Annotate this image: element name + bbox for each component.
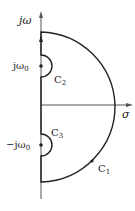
lower-pole-label: −jω0	[6, 139, 30, 152]
vertical-axis-label: jω	[16, 14, 31, 27]
axis-arrow-up-icon	[39, 11, 43, 18]
c1-point-dot	[90, 159, 93, 162]
c1-label: C1	[98, 163, 110, 176]
lower-pole-dot	[39, 143, 43, 147]
upper-pole-label: jω0	[12, 60, 29, 73]
axis-arrow-right-icon	[126, 103, 133, 107]
horizontal-axis-label: σ	[122, 108, 130, 121]
upper-pole-dot	[39, 64, 43, 68]
contour-path	[41, 32, 115, 182]
real-axis	[41, 103, 133, 107]
c2-label: C2	[54, 74, 66, 87]
c3-label: C3	[51, 127, 63, 140]
direction-arrow-icon	[39, 35, 43, 42]
nyquist-contour-diagram: jω σ jω0 −jω0 C2 C3 C1	[0, 0, 135, 211]
